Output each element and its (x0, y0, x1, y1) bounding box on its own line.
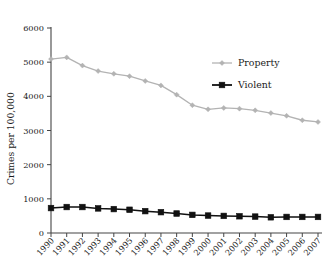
data-point-marker (142, 208, 148, 214)
data-point-marker (64, 204, 70, 210)
data-point-marker (80, 204, 86, 210)
data-point-marker (237, 213, 243, 219)
data-point-marker (111, 206, 117, 212)
data-point-marker (190, 212, 196, 218)
data-point-marker (95, 206, 101, 212)
data-point-marker (48, 205, 54, 211)
data-point-marker (252, 214, 258, 220)
y-axis-title: Crimes per 100,000 (5, 92, 16, 185)
y-tick-label: 4000 (23, 91, 44, 101)
y-tick-label: 5000 (23, 57, 44, 67)
chart-background (0, 0, 331, 268)
data-point-marker (284, 214, 290, 220)
data-point-marker (127, 207, 133, 213)
data-point-marker (158, 209, 164, 215)
data-point-marker (221, 213, 227, 219)
data-point-marker (315, 214, 321, 220)
data-point-marker (299, 214, 305, 220)
data-point-marker (219, 82, 225, 88)
data-point-marker (174, 211, 180, 217)
chart-canvas: Crimes per 100,000 010002000300040005000… (0, 0, 331, 268)
crime-rate-line-chart: Crimes per 100,000 010002000300040005000… (0, 0, 331, 268)
y-tick-label: 3000 (23, 126, 44, 136)
y-tick-label: 6000 (23, 23, 44, 33)
legend-label: Property (238, 57, 280, 68)
y-tick-label: 2000 (23, 160, 44, 170)
data-point-marker (268, 214, 274, 220)
y-tick-label: 1000 (23, 194, 44, 204)
y-axis-title-text: Crimes per 100,000 (5, 92, 16, 185)
data-point-marker (205, 213, 211, 219)
legend-label: Violent (237, 79, 272, 90)
y-tick-label: 0 (39, 228, 44, 238)
